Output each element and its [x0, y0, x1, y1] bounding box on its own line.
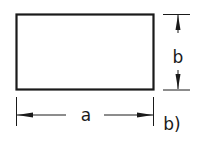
rectangle — [17, 15, 154, 90]
arrow-left-icon — [17, 113, 33, 118]
height-label: b — [173, 47, 184, 67]
subfigure-label: b) — [163, 114, 180, 134]
arrow-up-icon — [176, 15, 181, 30]
dimensioned-rectangle-diagram: b a b) — [0, 0, 198, 143]
arrow-right-icon — [137, 113, 153, 118]
arrow-down-icon — [176, 74, 181, 89]
width-label: a — [81, 105, 91, 125]
